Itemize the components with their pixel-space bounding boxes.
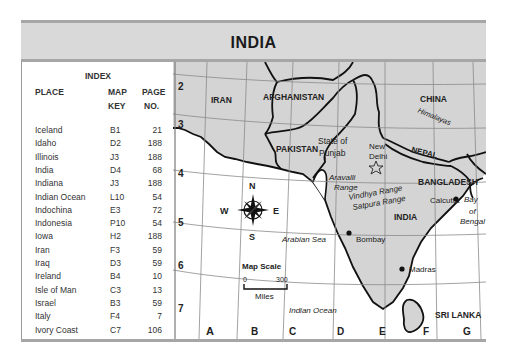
bottom-rule — [21, 339, 486, 342]
index-row: Indian OceanL1054 — [24, 192, 172, 205]
index-page-no: 188 — [148, 152, 162, 162]
index-place: Isle of Man — [35, 285, 77, 295]
index-page-no: 59 — [153, 298, 162, 308]
col-label-G: G — [463, 326, 471, 337]
index-map-key: J3 — [110, 152, 119, 162]
index-map-key: C3 — [110, 285, 121, 295]
index-map-key: E3 — [110, 205, 120, 215]
index-page-no: 10 — [153, 271, 162, 281]
page-title: INDIA — [230, 34, 276, 52]
label-aravalli-1: Aravalli — [328, 173, 355, 182]
index-place: Iowa — [35, 231, 53, 241]
scale-unit: Miles — [255, 292, 274, 301]
index-map-key: D3 — [110, 258, 121, 268]
index-row: IowaH2188 — [24, 231, 172, 244]
index-page-no: 68 — [153, 165, 162, 175]
header-place: PLACE — [35, 85, 64, 99]
compass-s: S — [249, 232, 255, 242]
index-place: Illinois — [35, 152, 59, 162]
label-punjab-2: Punjab — [319, 148, 346, 158]
index-map-key: B3 — [110, 298, 120, 308]
header-map: MAP — [108, 85, 127, 99]
index-page-no: 59 — [153, 245, 162, 255]
label-indian-ocean: Indian Ocean — [289, 306, 337, 315]
index-row: IrelandB410 — [24, 271, 172, 284]
index-map-key: D4 — [110, 165, 121, 175]
label-new-delhi-1: New — [369, 142, 385, 151]
index-row: IcelandB121 — [24, 125, 172, 138]
index-row: IsraelB359 — [24, 298, 172, 311]
index-place: Italy — [35, 311, 51, 321]
scale-min: 0 — [243, 276, 247, 283]
index-row: IdahoD2188 — [24, 138, 172, 151]
index-map-key: F3 — [110, 245, 120, 255]
col-label-D: D — [337, 326, 344, 337]
index-page-no: 72 — [153, 205, 162, 215]
index-page-no: 21 — [153, 125, 162, 135]
index-table: INDEX PLACE MAP KEY PAGE NO. IcelandB121… — [24, 64, 172, 338]
index-row: Isle of ManC313 — [24, 285, 172, 298]
index-page-no: 188 — [148, 138, 162, 148]
index-map-key: L10 — [110, 192, 124, 202]
label-bay-1: Bay — [464, 195, 479, 204]
index-map-key: D2 — [110, 138, 121, 148]
index-row: IllinoisJ3188 — [24, 152, 172, 165]
header-key: KEY — [108, 99, 125, 113]
scale-title: Map Scale — [242, 262, 282, 271]
index-row: ItalyF47 — [24, 311, 172, 324]
index-row: Ivory CoastC7106 — [24, 325, 172, 338]
index-place: Israel — [35, 298, 56, 308]
label-punjab-1: State of — [318, 136, 348, 146]
label-pakistan: PAKISTAN — [276, 144, 318, 154]
label-bay-2: of — [469, 207, 476, 216]
label-madras: Madras — [409, 265, 436, 274]
index-page-no: 54 — [153, 218, 162, 228]
col-label-B: B — [251, 326, 258, 337]
index-place: Ivory Coast — [35, 325, 78, 335]
label-iran: IRAN — [211, 95, 232, 105]
index-row: IndiaD468 — [24, 165, 172, 178]
compass-e: E — [273, 206, 279, 216]
col-label-C: C — [289, 326, 296, 337]
row-label-4: 4 — [178, 168, 184, 179]
row-label-5: 5 — [178, 217, 184, 228]
index-place: Indiana — [35, 178, 63, 188]
index-row: IndonesiaP1054 — [24, 218, 172, 231]
row-label-3: 3 — [178, 119, 184, 130]
compass-w: W — [220, 206, 229, 216]
col-label-A: A — [206, 325, 214, 337]
index-page-no: 7 — [157, 311, 162, 321]
label-arabian-sea: Arabian Sea — [281, 235, 327, 244]
label-bay-3: Bengal — [460, 217, 485, 226]
index-page-no: 59 — [153, 258, 162, 268]
city-dot-bombay — [346, 230, 351, 235]
header-page: PAGE — [142, 85, 165, 99]
row-label-6: 6 — [178, 260, 184, 271]
compass-n: N — [249, 181, 256, 191]
index-map-key: F4 — [110, 311, 120, 321]
index-place: Iran — [35, 245, 50, 255]
map-area: 2 3 4 5 6 7 A B C D E F G IRAN AFGHANIST… — [173, 62, 486, 339]
index-page-no: 188 — [148, 231, 162, 241]
index-page-no: 106 — [148, 325, 162, 335]
scale-max: 300 — [276, 276, 288, 283]
index-page-no: 188 — [148, 178, 162, 188]
index-map-key: P10 — [110, 218, 125, 228]
index-place: Iceland — [35, 125, 62, 135]
label-aravalli-2: Range — [334, 183, 358, 192]
label-bombay: Bombay — [356, 235, 385, 244]
india-map: 2 3 4 5 6 7 A B C D E F G IRAN AFGHANIST… — [173, 62, 486, 339]
index-page-no: 54 — [153, 192, 162, 202]
label-new-delhi-2: Delhi — [369, 152, 387, 161]
row-label-2: 2 — [178, 81, 184, 92]
index-place: Indochina — [35, 205, 72, 215]
label-bangladesh-visible: BANGLADESH — [418, 177, 478, 187]
index-place: Iraq — [35, 258, 50, 268]
index-title: INDEX — [24, 71, 172, 81]
index-page-no: 13 — [153, 285, 162, 295]
index-map-key: J3 — [110, 178, 119, 188]
header-no: NO. — [144, 99, 159, 113]
index-place: Indian Ocean — [35, 192, 86, 202]
row-label-7: 7 — [178, 303, 184, 314]
index-map-key: C7 — [110, 325, 121, 335]
